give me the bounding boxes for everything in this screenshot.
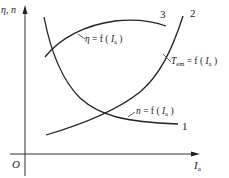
- curve-1-number: 1: [182, 120, 188, 132]
- curve-3-number: 3: [160, 8, 166, 20]
- curve-3-efficiency: 3 η = f ( Ia ): [45, 8, 166, 57]
- curve-2-torque: 2 Tem = f ( Ia ): [46, 7, 217, 135]
- curve-2-label: Tem = f ( Ia ): [171, 56, 217, 67]
- curve-2-line: [46, 16, 183, 135]
- x-axis-arrow-icon: [191, 152, 200, 157]
- y-axis: η, n: [1, 4, 28, 176]
- y-axis-arrow-icon: [23, 5, 28, 14]
- x-axis-label: Ia: [193, 159, 202, 173]
- motor-characteristics-diagram: η, n Ia O 1 n = f ( Ia ) 2 Tem = f ( Ia …: [0, 0, 229, 178]
- x-axis: Ia O: [10, 152, 202, 174]
- curve-1-label: n = f ( Ia ): [136, 106, 174, 117]
- curve-1-leader: [128, 112, 135, 117]
- origin-label: O: [12, 158, 20, 170]
- curve-2-number: 2: [190, 7, 196, 19]
- curve-3-leader: [78, 34, 85, 39]
- curve-3-label: η = f ( Ia ): [85, 34, 123, 45]
- curve-1-speed: 1 n = f ( Ia ): [44, 17, 188, 132]
- y-axis-label: η, n: [1, 4, 16, 15]
